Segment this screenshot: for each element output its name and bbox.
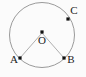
point-a-label: A [10,53,18,65]
point-c-dot [66,17,69,20]
point-c-label: C [70,4,77,16]
point-b-label: B [67,53,74,65]
geometry-canvas: O A B C [0,0,86,77]
point-o-label: O [38,34,46,46]
point-a-dot [18,56,21,59]
geometry-figure: O A B C [0,0,86,77]
point-b-dot [62,56,65,59]
